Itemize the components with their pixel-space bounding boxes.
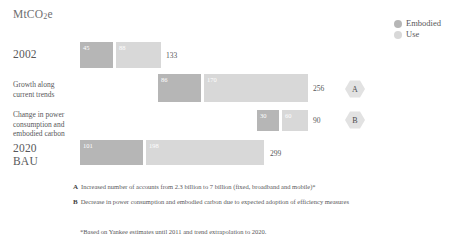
bar-use-growth: 170 [204,74,308,102]
bar-value-use-growth: 170 [207,76,217,84]
source-note: *Based on Yankee estimates until 2011 an… [80,228,266,235]
legend-label-use: Use [406,30,419,39]
bar-value-use-change: 60 [285,112,292,120]
annotation-badge-a: A [345,80,365,98]
row-label-2020-bau: 2020 BAU [13,142,38,168]
legend-dot-icon [394,31,402,39]
footnote-a-key: A [73,183,78,191]
chart-row-change: Change in power consumption and embodied… [0,110,449,132]
row-total-2020-bau: 299 [270,149,281,158]
legend-item-use: Use [394,30,441,39]
bar-value-use-2002: 88 [119,44,126,52]
footnote-b-text: Decrease in power consumption and embodi… [81,198,349,206]
bar-value-embodied-growth: 86 [161,76,168,84]
row-label-2002: 2002 [13,48,37,61]
footnote-a: A Increased number of accounts from 2.3 … [73,183,443,191]
unit-label: MtCO2e [13,8,53,21]
footnote-a-text: Increased number of accounts from 2.3 bi… [81,183,315,191]
chart-row-2020-bau: 2020 BAU 101 198 299 [0,140,449,166]
bar-use-change: 60 [282,110,308,131]
legend-label-embodied: Embodied [406,19,441,28]
bar-use-2020-bau: 198 [146,140,264,165]
chart-root: MtCO2e Embodied Use 2002 45 88 133 Growt… [0,0,449,247]
bar-value-embodied-2020-bau: 101 [83,142,93,150]
row-total-change: 90 [313,116,321,125]
row-label-change: Change in power consumption and embodied… [13,110,65,139]
chart-row-growth: Growth along current trends 86 170 256 A [0,74,449,104]
bar-use-2002: 88 [116,42,161,68]
annotation-badge-b-label: B [352,116,357,125]
chart-row-2002: 2002 45 88 133 [0,42,449,70]
footnote-b-key: B [73,198,78,206]
footnotes: A Increased number of accounts from 2.3 … [73,183,443,213]
legend: Embodied Use [394,19,441,39]
bar-value-embodied-2002: 45 [83,44,90,52]
footnote-b: B Decrease in power consumption and embo… [73,198,443,206]
bar-value-use-2020-bau: 198 [149,142,159,150]
unit-suffix: e [47,8,52,20]
legend-item-embodied: Embodied [394,19,441,28]
row-total-2002: 133 [166,51,177,60]
bar-embodied-2002: 45 [80,42,113,68]
bar-embodied-growth: 86 [158,74,201,102]
bar-embodied-2020-bau: 101 [80,140,143,165]
annotation-badge-a-label: A [352,85,358,94]
row-label-growth: Growth along current trends [13,80,54,99]
unit-prefix: MtCO [13,8,43,20]
legend-dot-icon [394,20,402,28]
annotation-badge-b: B [345,111,365,129]
bar-value-embodied-change: 30 [260,112,267,120]
row-total-growth: 256 [313,84,324,93]
bar-embodied-change: 30 [257,110,279,131]
